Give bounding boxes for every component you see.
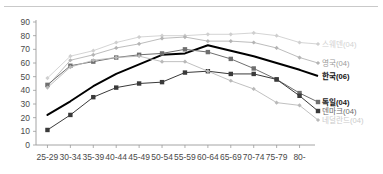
x-axis-tick-label: 40-44 [105, 152, 127, 162]
data-point-marker [229, 57, 233, 61]
data-point-marker [160, 60, 164, 64]
data-point-marker [229, 79, 233, 83]
legend-label: 영국(04) [322, 58, 350, 68]
data-point-marker [206, 39, 210, 43]
data-point-marker [91, 53, 95, 57]
data-point-marker [183, 70, 187, 74]
legend-leader-line [300, 105, 318, 120]
y-axis-tick-label: 0 [25, 140, 30, 150]
data-point-marker [252, 31, 256, 35]
legend-leader-line [300, 43, 318, 45]
data-point-marker [114, 40, 118, 44]
x-axis-tick-label: 75-79 [266, 152, 288, 162]
legend-leader-line [300, 58, 318, 63]
x-axis-tick-label: 70-74 [243, 152, 265, 162]
x-axis-tick-label: 55-59 [174, 152, 196, 162]
data-point-marker [137, 81, 141, 85]
data-point-marker [252, 66, 256, 70]
x-axis-tick-label: 45-49 [128, 152, 150, 162]
data-point-marker [316, 42, 320, 46]
series-line [47, 33, 299, 78]
y-axis-tick-label: 70 [21, 44, 31, 54]
legend-label: 한국(06) [322, 71, 350, 81]
data-point-marker [252, 72, 256, 76]
data-point-marker [160, 36, 164, 40]
data-point-marker [91, 95, 95, 99]
data-point-marker [183, 47, 187, 51]
y-axis-tick-label: 10 [21, 126, 31, 136]
y-axis-tick-label: 20 [21, 113, 31, 123]
data-point-marker [274, 77, 278, 81]
data-point-marker [252, 40, 256, 44]
legend-label: 덴마크(04) [322, 107, 357, 116]
data-point-marker [137, 42, 141, 46]
data-point-marker [91, 49, 95, 53]
data-point-marker [114, 85, 118, 89]
legend-label: 독일(04) [322, 97, 350, 107]
y-axis-tick-label: 30 [21, 99, 31, 109]
line-chart: 010203040506070809025-2930-3435-3940-444… [0, 14, 383, 174]
data-point-marker [229, 72, 233, 76]
legend-label: 네덜란드(04) [322, 115, 364, 125]
data-point-marker [45, 128, 49, 132]
x-axis-tick-label: 80- [293, 152, 305, 162]
data-point-marker [316, 100, 320, 104]
x-axis-tick-label: 30-34 [60, 152, 82, 162]
data-point-marker [206, 50, 210, 54]
x-axis-tick-label: 35-39 [82, 152, 104, 162]
y-axis-tick-label: 90 [21, 17, 31, 27]
data-point-marker [183, 60, 187, 64]
series-line [47, 71, 299, 130]
legend-label: 스웨덴(04) [322, 40, 357, 49]
top-divider [4, 6, 378, 7]
data-point-marker [137, 35, 141, 39]
x-axis-tick-label: 60-64 [197, 152, 219, 162]
series-line [47, 45, 299, 115]
data-point-marker [68, 113, 72, 117]
data-point-marker [316, 109, 320, 113]
data-point-marker [114, 46, 118, 50]
y-axis-tick-label: 50 [21, 72, 31, 82]
series-line [47, 49, 299, 93]
y-axis-tick-label: 60 [21, 58, 31, 68]
data-point-marker [275, 101, 279, 105]
chart-svg: 010203040506070809025-2930-3435-3940-444… [0, 14, 383, 174]
x-axis-tick-label: 65-69 [220, 152, 242, 162]
x-axis-tick-label: 25-29 [37, 152, 59, 162]
data-point-marker [229, 39, 233, 43]
data-point-marker [160, 80, 164, 84]
data-point-marker [275, 34, 279, 38]
data-point-marker [316, 61, 320, 65]
data-point-marker [206, 32, 210, 36]
data-point-marker [275, 46, 279, 50]
legend-leader-line [300, 70, 318, 76]
data-point-marker [229, 32, 233, 36]
data-point-marker [160, 51, 164, 55]
data-point-marker [252, 87, 256, 91]
y-axis-tick-label: 40 [21, 85, 31, 95]
x-axis-tick-label: 50-54 [151, 152, 173, 162]
y-axis-tick-label: 80 [21, 31, 31, 41]
